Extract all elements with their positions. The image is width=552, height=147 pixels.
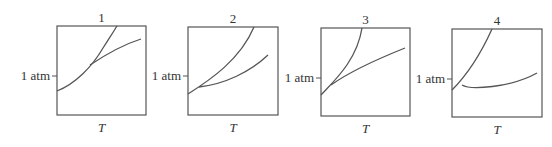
panel-4: 1 atm4T (416, 13, 542, 137)
plot-frame (321, 28, 410, 116)
panel-1: 1 atm1T (21, 10, 146, 135)
temperature-axis-label: T (493, 122, 501, 137)
panel-number: 2 (230, 11, 237, 26)
pressure-label: 1 atm (21, 68, 50, 83)
plot-frame (452, 29, 542, 117)
temperature-axis-label: T (98, 120, 106, 135)
coexistence-curve-steep (188, 27, 254, 94)
plot-frame (57, 26, 146, 115)
coexistence-curve-shallow (90, 39, 141, 65)
pressure-label: 1 atm (285, 70, 314, 85)
coexistence-curve-shallow (331, 48, 405, 85)
coexistence-curve-steep (57, 26, 117, 91)
coexistence-curve-shallow (199, 55, 268, 87)
phase-diagram-figure: 1 atm1T1 atm2T1 atm3T1 atm4T (0, 0, 552, 147)
temperature-axis-label: T (229, 120, 237, 135)
panel-number: 1 (98, 10, 105, 25)
coexistence-curve-shallow (462, 73, 537, 87)
panel-number: 3 (362, 12, 369, 27)
pressure-label: 1 atm (416, 71, 445, 86)
pressure-label: 1 atm (152, 68, 181, 83)
panel-2: 1 atm2T (152, 11, 278, 135)
panel-number: 4 (494, 13, 501, 28)
coexistence-curve-steep (452, 29, 492, 90)
temperature-axis-label: T (362, 121, 370, 136)
coexistence-curve-steep (321, 28, 362, 95)
panel-3: 1 atm3T (285, 12, 410, 136)
plot-frame (188, 27, 278, 115)
